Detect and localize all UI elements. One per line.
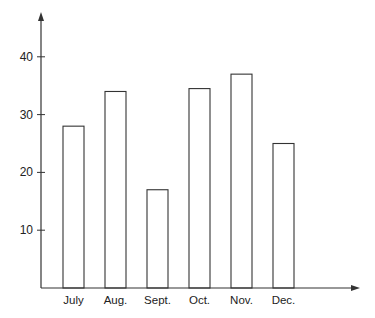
x-category-label: Nov. (230, 294, 253, 306)
bar-july (63, 126, 84, 288)
bars-group (63, 74, 294, 288)
bar-chart: 10203040 JulyAug.Sept.Oct.Nov.Dec. (0, 0, 375, 318)
bar-dec (273, 144, 294, 289)
bar-oct (189, 89, 210, 288)
y-tick-label: 40 (20, 50, 34, 64)
x-axis-arrow-icon (351, 285, 360, 291)
bar-aug (105, 91, 126, 288)
y-axis-arrow-icon (38, 12, 44, 21)
x-category-label: Sept. (144, 294, 171, 306)
x-category-label: Oct. (189, 294, 210, 306)
x-category-label: Dec. (272, 294, 296, 306)
x-labels-group: JulyAug.Sept.Oct.Nov.Dec. (63, 294, 295, 306)
y-tick-label: 30 (20, 108, 34, 122)
y-tick-label: 20 (20, 165, 34, 179)
x-category-label: Aug. (104, 294, 128, 306)
bar-nov (231, 74, 252, 288)
bar-sept (147, 190, 168, 288)
y-tick-label: 10 (20, 223, 34, 237)
x-category-label: July (63, 294, 84, 306)
